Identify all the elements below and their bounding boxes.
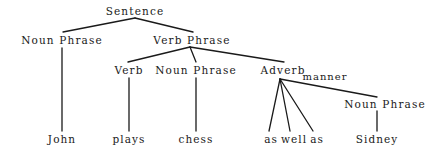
tree-node-well: well [281,134,307,145]
parse-tree-diagram: SentenceNoun PhraseVerb PhraseVerbNoun P… [0,0,441,156]
tree-node-as1: as [264,134,278,145]
tree-edge-adverb-to-as1 [269,79,280,131]
tree-node-np3: Noun Phrase [344,99,426,110]
tree-node-sentence: Sentence [106,6,165,17]
tree-edge-sentence-to-vp [135,18,193,32]
tree-node-chess: chess [179,134,214,145]
tree-edge-vp-to-verb [128,47,190,62]
tree-node-plays: plays [113,134,146,145]
tree-node-vp: Verb Phrase [153,35,230,46]
tree-node-verb: Verb [114,65,143,76]
tree-edge-vp-to-adverb [190,47,284,62]
tree-node-sidney: Sidney [356,134,398,145]
tree-node-as2: as [310,134,324,145]
tree-node-np1: Noun Phrase [21,35,103,46]
tree-node-np2: Noun Phrase [155,65,237,76]
tree-edge-vp-to-np2 [190,47,196,62]
tree-node-manner: manner [302,72,347,82]
tree-node-john: John [48,134,76,145]
tree-edge-sentence-to-np1 [63,18,135,32]
tree-node-adverb: Adverb [260,65,305,76]
